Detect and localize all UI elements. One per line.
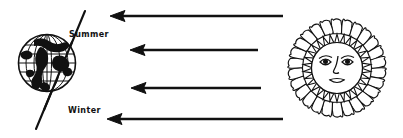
sunlight-ray-1 bbox=[110, 11, 283, 22]
sun-with-face bbox=[288, 19, 387, 117]
sun-inner-ray bbox=[362, 63, 371, 67]
sunlight-ray-2 bbox=[130, 45, 258, 56]
seasons-diagram: Summer Winter bbox=[0, 0, 403, 138]
sunlight-ray-3 bbox=[131, 83, 261, 94]
sun-inner-ray bbox=[335, 93, 339, 102]
label-summer: Summer bbox=[69, 31, 109, 39]
sunlight-rays bbox=[107, 11, 283, 125]
label-winter: Winter bbox=[68, 107, 101, 115]
diagram-canvas bbox=[0, 0, 403, 138]
sun-outer-ray bbox=[288, 58, 304, 68]
sun-outer-ray bbox=[332, 102, 343, 117]
sun-inner-ray bbox=[362, 68, 371, 72]
sun-inner-ray bbox=[303, 68, 312, 72]
sun-outer-ray bbox=[371, 68, 387, 78]
sun-face-disc bbox=[312, 43, 363, 94]
sun-inner-ray bbox=[303, 63, 312, 67]
sun-inner-ray bbox=[335, 34, 339, 43]
sunlight-ray-4 bbox=[107, 114, 283, 125]
